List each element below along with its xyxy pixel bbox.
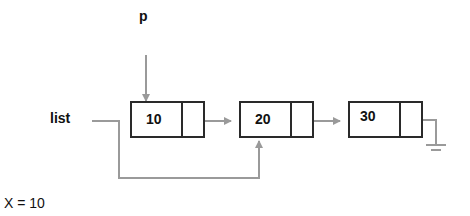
node-data-field: 20 <box>241 103 292 136</box>
head-list-label: list <box>50 110 70 126</box>
variable-x-label: X = 10 <box>4 195 45 211</box>
node-value: 10 <box>146 111 162 127</box>
node-20: 20 <box>239 101 314 138</box>
pointer-p-label: p <box>139 8 148 24</box>
node-value: 20 <box>255 111 271 127</box>
node-10: 10 <box>130 101 205 138</box>
node-data-field: 10 <box>132 103 183 136</box>
node-data-field: 30 <box>350 103 401 136</box>
node-30: 30 <box>348 101 423 138</box>
node-value: 30 <box>360 108 376 124</box>
